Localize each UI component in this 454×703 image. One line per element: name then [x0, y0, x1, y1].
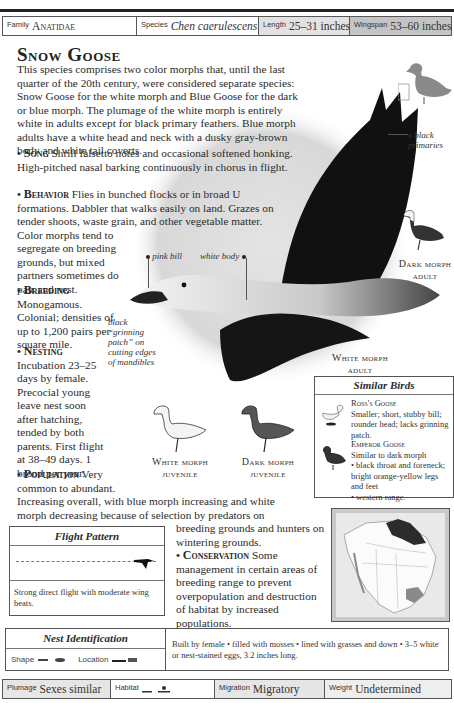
- weight-cell: Weight Undetermined: [325, 680, 451, 698]
- bullet-icon: •: [17, 345, 24, 357]
- wingspan-label: Wingspan: [354, 20, 387, 29]
- similar-bird-item: Emperor Goose Similar to dark morph • bl…: [315, 437, 453, 497]
- migration-cell: Migration Migratory: [215, 680, 325, 698]
- callout-line: [148, 258, 149, 288]
- wingspan-cell: Wingspan 53–60 inches: [350, 17, 451, 35]
- flying-bird-icon: [134, 554, 156, 570]
- habitat-cell: Habitat: [111, 680, 215, 698]
- callout-black-primaries-text: black primaries: [408, 130, 443, 150]
- caption-dark-morph-adult: Dark morph adult: [395, 258, 454, 282]
- wingspan-value: 53–60 inches: [390, 20, 451, 32]
- caption-dark-morph-juvenile: Dark morph juvenile: [226, 456, 310, 480]
- info-bar-bottom: Plumage Sexes similar Habitat Migration …: [2, 679, 452, 699]
- bullet-icon: •: [17, 147, 24, 159]
- ross-goose-name: Ross's Goose: [351, 398, 451, 409]
- song-section: • Song Shrill falsetto notes and occasio…: [17, 147, 302, 174]
- flight-pattern-diagram: [10, 546, 164, 581]
- migration-label: Migration: [219, 683, 250, 692]
- range-map: [331, 508, 450, 622]
- weight-value: Undetermined: [355, 683, 421, 695]
- emperor-goose-bullet: • black throat and foreneck; bright oran…: [351, 460, 451, 492]
- callout-pink-bill: pink bill: [146, 251, 182, 261]
- behavior-heading: Behavior: [24, 187, 69, 201]
- breeding-text: Monogamous. Colonial; densities of up to…: [17, 298, 114, 351]
- nest-location-label: Location: [78, 655, 108, 664]
- behavior-section: • Behavior Flies in bunched flocks or in…: [17, 188, 282, 242]
- length-cell: Length 25–31 inches: [259, 17, 350, 35]
- flight-pattern-box: Flight Pattern Strong direct flight with…: [9, 526, 165, 616]
- range-map-image: [336, 513, 445, 617]
- nest-location-icon: [112, 657, 138, 663]
- flight-pattern-title: Flight Pattern: [10, 527, 164, 546]
- family-cell: Family Anatidae: [3, 17, 137, 35]
- caption-line: White morph: [138, 456, 222, 468]
- nest-identification-title: Nest Identification: [6, 629, 165, 649]
- callout-pink-bill-text: pink bill: [152, 251, 182, 261]
- bullet-icon: •: [17, 188, 24, 200]
- population-text-wide: Increasing overall, with blue morph incr…: [17, 495, 307, 522]
- species-cell: Species Chen caerulescens: [137, 17, 259, 35]
- nesting-section: • Nesting Incubation 23–25 days by femal…: [17, 345, 107, 480]
- white-morph-juvenile-image: [150, 400, 210, 455]
- nesting-heading: Nesting: [24, 344, 63, 358]
- top-rule: [0, 9, 454, 12]
- family-value: Anatidae: [32, 20, 75, 32]
- weight-label: Weight: [329, 683, 352, 692]
- caption-white-morph-juvenile: White morph juvenile: [138, 456, 222, 480]
- ross-goose-entry: Ross's Goose Smaller; short, stubby bill…: [351, 398, 451, 440]
- nest-identification-box: Nest Identification Shape Location Built…: [5, 628, 449, 671]
- migration-value: Migratory: [253, 683, 300, 695]
- plumage-cell: Plumage Sexes similar: [3, 680, 111, 698]
- callout-black-primaries: black primaries: [408, 130, 454, 150]
- length-label: Length: [263, 20, 286, 29]
- callout-grinning-patch: black “grinning patch” on cutting edges …: [108, 317, 158, 367]
- similar-bird-item: Ross's Goose Smaller; short, stubby bill…: [315, 395, 453, 437]
- ross-goose-text: Smaller; short, stubby bill; rounder hea…: [351, 409, 451, 441]
- emperor-goose-bullet: • western range.: [351, 492, 451, 503]
- habitat-label: Habitat: [115, 683, 139, 692]
- conservation-heading: Conservation: [183, 548, 249, 562]
- population-text-right: breeding grounds and hunters on winterin…: [176, 522, 326, 549]
- length-value: 25–31 inches: [289, 20, 350, 32]
- caption-white-morph-adult: White morph adult: [320, 352, 400, 376]
- caption-line: adult: [395, 270, 454, 282]
- caption-line: juvenile: [138, 468, 222, 480]
- breeding-heading: Breeding: [24, 283, 69, 297]
- bullet-icon: •: [17, 468, 24, 480]
- bullet-icon: •: [17, 284, 24, 296]
- dark-morph-adult-image: [400, 208, 446, 254]
- ross-goose-image: [319, 403, 345, 427]
- flight-pattern-description: Strong direct flight with moderate wing …: [10, 581, 164, 614]
- nest-identification-left: Nest Identification Shape Location: [6, 629, 166, 670]
- callout-line: [246, 258, 247, 300]
- nesting-text: Incubation 23–25 days by female. Precoci…: [17, 359, 103, 479]
- emperor-goose-entry: Emperor Goose Similar to dark morph • bl…: [351, 439, 451, 502]
- nest-shape-location: Shape Location: [6, 649, 165, 670]
- emperor-goose-bullet-text: western range.: [356, 492, 406, 502]
- caption-line: White morph: [320, 352, 400, 364]
- conservation-section: • Conservation Some management in certai…: [176, 549, 326, 630]
- emperor-goose-bullet-text: black throat and foreneck; bright orange…: [351, 460, 445, 491]
- habitat-icons: [142, 684, 172, 694]
- emperor-goose-text: Similar to dark morph: [351, 450, 451, 461]
- song-text: Shrill falsetto notes and occasional sof…: [17, 147, 293, 173]
- caption-line: juvenile: [226, 468, 310, 480]
- similar-birds-box: Similar Birds Ross's Goose Smaller; shor…: [314, 376, 454, 498]
- callout-white-body: white body: [200, 251, 246, 261]
- species-label: Species: [141, 20, 168, 29]
- emperor-goose-image: [319, 443, 347, 471]
- caption-line: adult: [320, 364, 400, 376]
- emperor-goose-name: Emperor Goose: [351, 439, 451, 450]
- caption-line: Dark morph: [395, 258, 454, 270]
- plumage-value: Sexes similar: [40, 683, 102, 695]
- caption-line: Dark morph: [226, 456, 310, 468]
- nest-shape-label: Shape: [11, 655, 34, 664]
- callout-white-body-text: white body: [200, 251, 239, 261]
- bullet-icon: •: [176, 549, 183, 561]
- species-value: Chen caerulescens: [171, 20, 258, 32]
- nest-identification-description: Built by female • filled with mosses • l…: [166, 629, 448, 670]
- nest-shape-icon: [38, 657, 66, 663]
- similar-birds-title: Similar Birds: [315, 377, 453, 395]
- intro-paragraph: This species comprises two color morphs …: [17, 63, 302, 158]
- info-bar-top: Family Anatidae Species Chen caerulescen…: [2, 16, 452, 36]
